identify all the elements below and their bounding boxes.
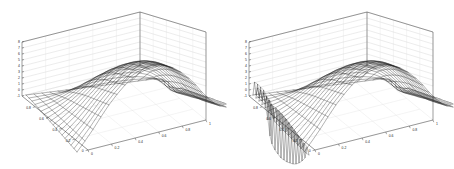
right-panel-back-wall-grid: [249, 12, 367, 96]
left-panel-y-ticks: 0.8 0.6 0.4 0.2 0: [26, 106, 88, 153]
right-z-tick-label-6: 2: [245, 76, 247, 80]
left-x-tick-label-0: 0: [91, 152, 93, 156]
left-x-tick-label-1: 1: [209, 122, 211, 126]
left-y-tick-label-08: 0.8: [26, 106, 31, 110]
figure-container: 8 7 6 5 4 3 2 1 0 -1 0.8 0.6 0.4: [0, 0, 454, 169]
left-panel-back-wall-grid: [22, 12, 140, 96]
left-panel-mesh-columns: [26, 61, 226, 152]
left-plot-panel: 8 7 6 5 4 3 2 1 0 -1 0.8 0.6 0.4: [0, 0, 227, 169]
right-x-tick-label-0: 0: [318, 152, 320, 156]
left-y-tick-label-04: 0.4: [52, 128, 57, 132]
right-x-tick-label-1: 1: [436, 122, 438, 126]
right-panel-floor-grid: [249, 66, 433, 150]
right-z-tick-label-1: 7: [245, 46, 247, 50]
left-panel-right-wall-grid: [140, 12, 206, 86]
left-y-tick-label-0: 0: [82, 149, 84, 153]
right-x-tick-label-08: 0.8: [412, 128, 417, 132]
right-z-tick-label-3: 5: [245, 58, 247, 62]
right-z-tick-label-5: 3: [245, 70, 247, 74]
left-z-tick-label-4: 4: [18, 64, 20, 68]
left-z-tick-label-0: 8: [18, 40, 20, 44]
right-z-tick-label-7: 1: [245, 82, 247, 86]
left-z-tick-label-9: -1: [17, 94, 20, 98]
left-z-tick-label-7: 1: [18, 82, 20, 86]
right-plot-panel: 8 7 6 5 4 3 2 1 0 -1 0.8 0.6 0.4: [227, 0, 454, 169]
right-panel-z-ticks: 8 7 6 5 4 3 2 1 0 -1: [244, 40, 251, 98]
right-x-tick-label-02: 0.2: [342, 146, 347, 150]
left-mesh-plot-svg: 8 7 6 5 4 3 2 1 0 -1 0.8 0.6 0.4: [0, 0, 227, 169]
left-z-tick-label-3: 5: [18, 58, 20, 62]
left-panel-x-ticks: 0 0.2 0.4 0.6 0.8 1: [88, 120, 211, 156]
right-z-tick-label-9: -1: [244, 94, 247, 98]
right-z-tick-label-2: 6: [245, 52, 247, 56]
left-panel-mesh-surface: [26, 61, 226, 152]
right-x-tick-label-04: 0.4: [365, 140, 370, 144]
left-x-tick-label-08: 0.8: [185, 128, 190, 132]
right-z-tick-label-0: 8: [245, 40, 247, 44]
right-z-tick-label-8: 0: [245, 88, 247, 92]
right-x-tick-label-06: 0.6: [389, 134, 394, 138]
right-panel-right-wall-grid: [367, 12, 433, 86]
left-z-tick-label-1: 7: [18, 46, 20, 50]
left-z-tick-label-5: 3: [18, 70, 20, 74]
right-y-tick-label-08: 0.8: [253, 106, 258, 110]
right-z-tick-label-4: 4: [245, 64, 247, 68]
right-y-tick-label-0: 0: [309, 149, 311, 153]
right-panel-mesh-columns: [269, 61, 453, 130]
left-y-tick-label-06: 0.6: [39, 117, 44, 121]
right-panel-x-ticks: 0 0.2 0.4 0.6 0.8 1: [315, 120, 438, 156]
left-panel-z-ticks: 8 7 6 5 4 3 2 1 0 -1: [17, 40, 24, 98]
left-z-tick-label-6: 2: [18, 76, 20, 80]
left-x-tick-label-04: 0.4: [138, 140, 143, 144]
left-x-tick-label-02: 0.2: [115, 146, 120, 150]
left-z-tick-label-2: 6: [18, 52, 20, 56]
left-x-tick-label-06: 0.6: [162, 134, 167, 138]
right-mesh-plot-svg: 8 7 6 5 4 3 2 1 0 -1 0.8 0.6 0.4: [227, 0, 454, 169]
left-z-tick-label-8: 0: [18, 88, 20, 92]
right-panel-y-ticks: 0.8 0.6 0.4 0.2 0: [253, 106, 315, 153]
right-y-tick-label-06: 0.6: [266, 117, 271, 121]
